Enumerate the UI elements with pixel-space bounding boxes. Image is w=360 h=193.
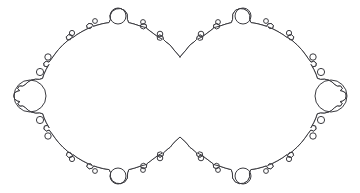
lemniscate-figure xyxy=(0,0,360,193)
figure-canvas xyxy=(0,0,360,193)
